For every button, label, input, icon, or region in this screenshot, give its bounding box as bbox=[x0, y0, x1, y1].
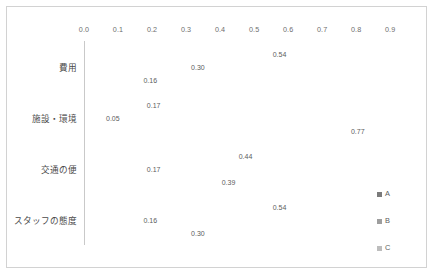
bar-value-label: 0.54 bbox=[273, 50, 287, 57]
bar-value-label: 0.30 bbox=[191, 63, 205, 70]
bar-group: 費用0.540.300.16 bbox=[84, 41, 414, 92]
bar-row: 0.39 bbox=[85, 177, 218, 186]
legend-item-c[interactable]: C bbox=[377, 243, 423, 253]
legend-item-a[interactable]: A bbox=[377, 189, 423, 199]
x-tick-label: 0.1 bbox=[113, 25, 123, 34]
bar-value-label: 0.30 bbox=[191, 229, 205, 236]
bar-row: 0.54 bbox=[85, 202, 269, 211]
x-tick-label: 0.5 bbox=[249, 25, 259, 34]
legend-label: B bbox=[385, 217, 390, 224]
bar-row: 0.30 bbox=[85, 62, 187, 71]
legend-item-b[interactable]: B bbox=[377, 216, 423, 226]
chart-legend: ABC bbox=[377, 189, 423, 270]
bar-value-label: 0.44 bbox=[239, 152, 253, 159]
bar-value-label: 0.39 bbox=[222, 178, 236, 185]
x-tick-label: 0.4 bbox=[215, 25, 225, 34]
bar-group: 交通の便0.440.170.39 bbox=[84, 143, 414, 194]
bar-value-label: 0.05 bbox=[106, 114, 120, 121]
legend-swatch-icon bbox=[377, 192, 382, 197]
plot-area: 費用0.540.300.16施設・環境0.170.050.77交通の便0.440… bbox=[84, 41, 414, 245]
chart-frame: 0.00.10.20.30.40.50.60.70.80.9 費用0.540.3… bbox=[6, 6, 427, 268]
legend-swatch-icon bbox=[377, 219, 382, 224]
bar-group: スタッフの態度0.540.160.30 bbox=[84, 194, 414, 245]
x-axis-tick-labels: 0.00.10.20.30.40.50.60.70.80.9 bbox=[84, 25, 424, 39]
bar-row: 0.05 bbox=[85, 113, 102, 122]
bar-value-label: 0.54 bbox=[273, 203, 287, 210]
bar-row: 0.17 bbox=[85, 164, 143, 173]
bar-row: 0.44 bbox=[85, 151, 235, 160]
x-tick-label: 0.7 bbox=[317, 25, 327, 34]
x-tick-label: 0.0 bbox=[79, 25, 89, 34]
bar-row: 0.17 bbox=[85, 100, 143, 109]
bar-value-label: 0.17 bbox=[147, 101, 161, 108]
x-tick-label: 0.3 bbox=[181, 25, 191, 34]
bar-value-label: 0.16 bbox=[143, 76, 157, 83]
bar-value-label: 0.77 bbox=[351, 127, 365, 134]
bar-row: 0.30 bbox=[85, 228, 187, 237]
bar-value-label: 0.17 bbox=[147, 165, 161, 172]
category-label: 費用 bbox=[59, 61, 77, 73]
bar-group: 施設・環境0.170.050.77 bbox=[84, 92, 414, 143]
category-label: スタッフの態度 bbox=[14, 214, 77, 226]
category-label: 施設・環境 bbox=[32, 112, 77, 124]
bar-value-label: 0.16 bbox=[143, 216, 157, 223]
legend-swatch-icon bbox=[377, 246, 382, 251]
bar-row: 0.16 bbox=[85, 75, 139, 84]
x-tick-label: 0.6 bbox=[283, 25, 293, 34]
bar-row: 0.77 bbox=[85, 126, 347, 135]
legend-label: C bbox=[385, 244, 390, 251]
x-tick-label: 0.2 bbox=[147, 25, 157, 34]
legend-label: A bbox=[385, 190, 390, 197]
x-tick-label: 0.9 bbox=[385, 25, 395, 34]
x-tick-label: 0.8 bbox=[351, 25, 361, 34]
bar-row: 0.54 bbox=[85, 49, 269, 58]
bar-row: 0.16 bbox=[85, 215, 139, 224]
category-label: 交通の便 bbox=[41, 163, 77, 175]
